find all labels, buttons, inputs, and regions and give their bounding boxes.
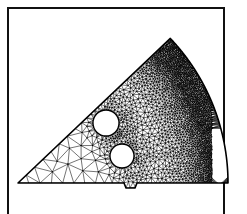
finite-element-mesh — [0, 0, 247, 214]
mesh-triangles — [18, 38, 228, 188]
figure-root — [0, 0, 247, 214]
